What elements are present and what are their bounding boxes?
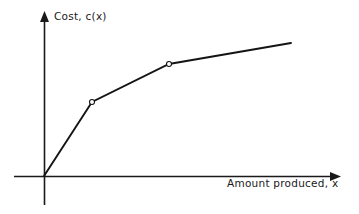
x-axis-label: Amount produced, x xyxy=(227,177,338,189)
y-axis-label: Cost, c(x) xyxy=(54,10,107,22)
cost-function-figure: Cost, c(x) Amount produced, x xyxy=(0,0,359,214)
y-axis-arrowhead-icon xyxy=(40,11,49,22)
kink-marker-1 xyxy=(90,100,95,105)
kink-marker-2 xyxy=(167,62,172,67)
